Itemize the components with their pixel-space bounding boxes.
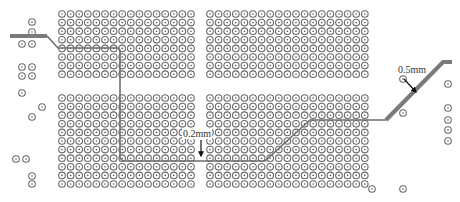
via-icon: [145, 11, 152, 18]
via-icon: [93, 164, 100, 171]
via-icon: [179, 54, 186, 61]
via-icon: [102, 62, 109, 69]
via-icon: [258, 121, 265, 128]
via-icon: [344, 181, 351, 188]
via-icon: [327, 37, 334, 44]
via-icon: [319, 181, 326, 188]
via-icon: [353, 181, 360, 188]
via-icon: [293, 121, 300, 128]
via-icon: [293, 172, 300, 179]
via-icon: [110, 54, 117, 61]
via-icon: [85, 146, 92, 153]
via-icon: [29, 181, 36, 188]
via-icon: [353, 172, 360, 179]
via-icon: [233, 129, 240, 136]
via-icon: [284, 164, 291, 171]
via-icon: [59, 112, 66, 119]
via-icon: [110, 28, 117, 35]
via-icon: [310, 11, 317, 18]
via-icon: [85, 155, 92, 162]
via-icon: [162, 37, 169, 44]
via-icon: [258, 181, 265, 188]
via-icon: [145, 129, 152, 136]
via-icon: [276, 71, 283, 78]
via-icon: [85, 121, 92, 128]
via-icon: [276, 11, 283, 18]
via-icon: [258, 164, 265, 171]
via-icon: [215, 71, 222, 78]
via-icon: [93, 181, 100, 188]
via-icon: [145, 71, 152, 78]
via-icon: [327, 172, 334, 179]
via-icon: [250, 112, 257, 119]
via-icon: [336, 181, 343, 188]
via-icon: [179, 112, 186, 119]
via-icon: [267, 19, 274, 26]
via-icon: [353, 37, 360, 44]
via-icon: [76, 112, 83, 119]
via-icon: [362, 19, 369, 26]
via-icon: [224, 103, 231, 110]
via-icon: [336, 45, 343, 52]
via-icon: [267, 172, 274, 179]
via-icon: [301, 146, 308, 153]
via-icon: [67, 95, 74, 102]
via-icon: [224, 164, 231, 171]
via-icon: [145, 54, 152, 61]
via-icon: [85, 129, 92, 136]
via-icon: [162, 71, 169, 78]
via-icon: [76, 146, 83, 153]
via-icon: [233, 45, 240, 52]
via-icon: [13, 156, 20, 163]
via-icon: [67, 146, 74, 153]
via-icon: [233, 164, 240, 171]
via-icon: [233, 146, 240, 153]
via-icon: [207, 103, 214, 110]
via-icon: [179, 181, 186, 188]
via-icon: [136, 71, 143, 78]
via-icon: [102, 37, 109, 44]
via-icon: [284, 54, 291, 61]
via-icon: [153, 37, 160, 44]
via-icon: [207, 37, 214, 44]
via-icon: [188, 71, 195, 78]
via-icon: [207, 11, 214, 18]
via-icon: [102, 164, 109, 171]
via-icon: [327, 71, 334, 78]
via-icon: [153, 129, 160, 136]
via-icon: [241, 103, 248, 110]
via-icon: [102, 11, 109, 18]
via-icon: [319, 71, 326, 78]
via-icon: [258, 37, 265, 44]
via-icon: [276, 112, 283, 119]
via-icon: [301, 138, 308, 145]
via-icon: [241, 129, 248, 136]
via-icon: [128, 112, 135, 119]
via-icon: [276, 129, 283, 136]
via-icon: [215, 45, 222, 52]
via-icon: [267, 146, 274, 153]
via-icon: [215, 121, 222, 128]
via-icon: [310, 181, 317, 188]
via-icon: [85, 164, 92, 171]
via-icon: [102, 146, 109, 153]
via-icon: [310, 146, 317, 153]
via-icon: [241, 164, 248, 171]
via-icon: [327, 181, 334, 188]
via-icon: [241, 37, 248, 44]
via-icon: [59, 11, 66, 18]
via-icon: [102, 28, 109, 35]
via-icon: [267, 71, 274, 78]
via-icon: [241, 54, 248, 61]
via-icon: [215, 103, 222, 110]
via-icon: [128, 164, 135, 171]
via-icon: [353, 103, 360, 110]
via-icon: [59, 103, 66, 110]
via-icon: [119, 164, 126, 171]
via-icon: [224, 129, 231, 136]
via-icon: [301, 129, 308, 136]
via-icon: [224, 172, 231, 179]
via-icon: [59, 146, 66, 153]
via-icon: [293, 112, 300, 119]
via-icon: [301, 164, 308, 171]
